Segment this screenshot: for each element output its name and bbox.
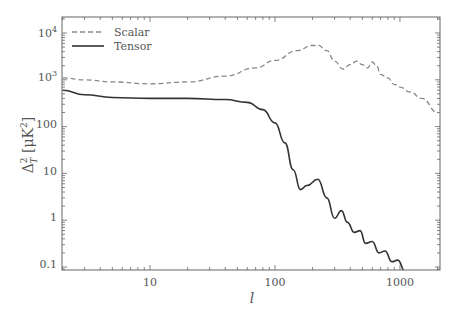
x-tick-label: 100 — [265, 276, 286, 289]
legend: Scalar Tensor — [72, 26, 152, 53]
y-tick-label: 100 — [36, 118, 57, 131]
plot-lines — [63, 45, 438, 274]
legend-tensor-label: Tensor — [114, 40, 152, 53]
legend-scalar-label: Scalar — [114, 26, 150, 39]
y-tick-label: 0.1 — [40, 258, 58, 271]
y-tick-label-1e4: 104 — [38, 25, 57, 40]
x-tick-label: 1000 — [386, 276, 414, 289]
y-tick-label-1e3: 103 — [38, 69, 57, 84]
y-tick-label: 10 — [43, 165, 57, 178]
chart-svg: 10 100 1000 104 103 100 10 1 0.1 l Δ2T [… — [0, 0, 455, 313]
plot-frame — [62, 17, 440, 270]
x-tick-label: 10 — [143, 276, 157, 289]
chart-figure: 10 100 1000 104 103 100 10 1 0.1 l Δ2T [… — [0, 0, 455, 313]
series-tensor — [63, 90, 412, 274]
y-tick-label: 1 — [50, 211, 57, 224]
x-axis-label: l — [250, 290, 254, 306]
axis-ticks — [62, 17, 440, 270]
